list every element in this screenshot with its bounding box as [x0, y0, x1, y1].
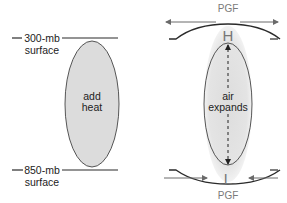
high-pressure-label: H: [223, 27, 234, 44]
column-label-expands: expands: [208, 101, 248, 113]
upper-surface-label: 300-mb: [24, 32, 60, 44]
thermal-pressure-diagram: 300-mb surface add heat 850-mb surface P…: [0, 0, 287, 203]
lower-surface-label: 850-mb: [24, 164, 60, 176]
bottom-pgf-label: PGF: [218, 190, 239, 201]
low-pressure-label: L: [224, 170, 232, 187]
left-panel: 300-mb surface add heat 850-mb surface: [12, 32, 119, 188]
upper-surface-label-2: surface: [25, 44, 60, 56]
top-pgf-label: PGF: [218, 3, 239, 14]
column-label-2: heat: [82, 101, 103, 113]
right-panel: PGF H air expands L PGF: [164, 3, 280, 201]
lower-surface-label-2: surface: [25, 176, 60, 188]
